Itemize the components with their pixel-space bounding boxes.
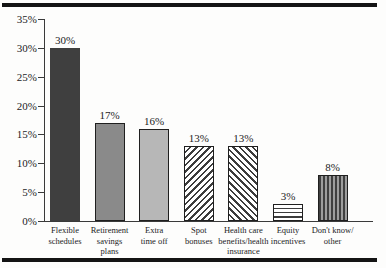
- bar-chart: 0%5%10%15%20%25%30%35% 30%17%16%13%13%3%…: [0, 0, 386, 268]
- bar: [273, 204, 303, 221]
- bar: [318, 175, 348, 221]
- x-axis-line: [44, 221, 373, 222]
- bottom-rule: [2, 258, 377, 262]
- y-tick-label: 5%: [4, 186, 37, 198]
- bar-value-label: 30%: [43, 34, 87, 46]
- bar-value-label: 16%: [132, 115, 176, 127]
- bar: [50, 48, 80, 221]
- figure: 0%5%10%15%20%25%30%35% 30%17%16%13%13%3%…: [0, 0, 386, 268]
- bar-value-label: 3%: [266, 190, 310, 202]
- bar-value-label: 17%: [88, 109, 132, 121]
- bar: [184, 146, 214, 221]
- plot-area: 30%17%16%13%13%3%8%: [44, 19, 373, 221]
- y-axis-line: [44, 19, 45, 221]
- y-tick-label: 25%: [4, 71, 37, 83]
- bar: [139, 129, 169, 221]
- y-tick-label: 10%: [4, 157, 37, 169]
- bar-value-label: 13%: [177, 132, 221, 144]
- bar: [228, 146, 258, 221]
- bar-value-label: 13%: [221, 132, 265, 144]
- bar: [95, 123, 125, 221]
- y-tick-label: 30%: [4, 42, 37, 54]
- y-tick-label: 15%: [4, 128, 37, 140]
- x-tick-label: Don't know/other: [291, 225, 375, 246]
- y-tick-label: 20%: [4, 100, 37, 112]
- y-tick-label: 35%: [4, 13, 37, 25]
- bar-value-label: 8%: [311, 161, 355, 173]
